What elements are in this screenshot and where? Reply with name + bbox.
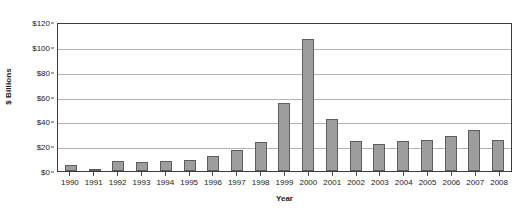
x-axis-tick-slot (392, 172, 416, 177)
bar-slot (225, 24, 249, 171)
y-axis-tick-mark (51, 172, 54, 173)
x-axis-tick-label: 1991 (82, 178, 106, 191)
x-axis-tick-mark (403, 172, 404, 176)
x-axis-tick-label: 1996 (201, 178, 225, 191)
bar[interactable] (136, 162, 148, 171)
x-axis-tick-label: 1997 (225, 178, 249, 191)
x-axis-tick-label: 2008 (487, 178, 511, 191)
bar-slot (296, 24, 320, 171)
plot-area (57, 23, 512, 172)
x-axis-tick-slot (463, 172, 487, 177)
bar-slot (415, 24, 439, 171)
x-axis-tick-slot (225, 172, 249, 177)
y-axis-tick-mark (51, 23, 54, 24)
y-axis-tick-label: $0 (41, 168, 50, 177)
x-axis-tick-label: 1998 (249, 178, 273, 191)
bar[interactable] (112, 161, 124, 171)
x-axis-tick-mark (93, 172, 94, 176)
bar[interactable] (207, 156, 219, 171)
x-axis-tick-slot (320, 172, 344, 177)
x-axis-tick-mark (260, 172, 261, 176)
x-axis-tick-label: 2005 (416, 178, 440, 191)
bar-slot (154, 24, 178, 171)
x-axis-tick-label: 1993 (130, 178, 154, 191)
x-axis-tick-label: 1999 (273, 178, 297, 191)
bar[interactable] (445, 136, 457, 171)
x-axis-tick-slot (153, 172, 177, 177)
x-axis-tick-mark (332, 172, 333, 176)
x-axis-tick-mark (451, 172, 452, 176)
x-axis-tick-mark (284, 172, 285, 176)
bar[interactable] (373, 144, 385, 171)
x-axis-tick-label: 1992 (106, 178, 130, 191)
x-axis-tick-slot (296, 172, 320, 177)
bar[interactable] (255, 142, 267, 171)
x-axis-tick-slot (177, 172, 201, 177)
x-axis-tick-slot (368, 172, 392, 177)
bar-slot (320, 24, 344, 171)
x-axis-tick-label: 2001 (320, 178, 344, 191)
y-axis-tick-label: $40 (37, 118, 50, 127)
x-axis-tick-slot (440, 172, 464, 177)
bar[interactable] (184, 160, 196, 171)
bar[interactable] (160, 161, 172, 171)
bar[interactable] (468, 130, 480, 171)
x-axis-tick-mark (69, 172, 70, 176)
x-axis-tick-slot (130, 172, 154, 177)
bar-slot (486, 24, 510, 171)
bar[interactable] (278, 103, 290, 171)
x-axis-tick-slot (273, 172, 297, 177)
x-axis-tick-slot (249, 172, 273, 177)
bar-chart-figure: $ Billions $0$20$40$60$80$100$120 199019… (0, 0, 524, 213)
y-axis-tick-label: $20 (37, 143, 50, 152)
x-axis-tick-slot (487, 172, 511, 177)
y-axis-tick-mark (51, 97, 54, 98)
bar[interactable] (421, 140, 433, 171)
bar[interactable] (492, 140, 504, 171)
bar[interactable] (350, 141, 362, 171)
x-axis-tick-label: 2004 (392, 178, 416, 191)
x-axis-tick-mark (308, 172, 309, 176)
x-axis-tick-mark (189, 172, 190, 176)
x-axis-tick-slot (344, 172, 368, 177)
x-axis-tick-mark (165, 172, 166, 176)
x-axis-tick-label: 2003 (368, 178, 392, 191)
bar[interactable] (326, 119, 338, 171)
x-axis-tick-mark (499, 172, 500, 176)
bar-slot (391, 24, 415, 171)
bar[interactable] (231, 150, 243, 171)
x-axis-tick-slot (58, 172, 82, 177)
bar[interactable] (65, 165, 77, 171)
y-axis-tick-mark (51, 72, 54, 73)
x-axis-tick-labels: 1990199119921993199419951996199719981999… (57, 178, 512, 191)
y-axis-tick-label: $120 (32, 19, 50, 28)
bar[interactable] (397, 141, 409, 171)
x-axis-tick-label: 2002 (344, 178, 368, 191)
x-axis-tick-label: 2007 (463, 178, 487, 191)
bar-slot (344, 24, 368, 171)
x-axis-tick-mark (212, 172, 213, 176)
x-axis-tick-slot (201, 172, 225, 177)
x-axis-tick-mark (236, 172, 237, 176)
x-axis-tick-mark (117, 172, 118, 176)
bar-slot (178, 24, 202, 171)
x-axis-tick-mark (427, 172, 428, 176)
bar-slot (106, 24, 130, 171)
x-axis-tick-label: 2006 (440, 178, 464, 191)
bar[interactable] (89, 169, 101, 171)
x-axis-tick-marks (57, 172, 512, 177)
bar-series (58, 24, 511, 171)
x-axis-tick-label: 1994 (153, 178, 177, 191)
bar-slot (83, 24, 107, 171)
x-axis-tick-label: 1990 (58, 178, 82, 191)
bar-slot (130, 24, 154, 171)
bar-slot (462, 24, 486, 171)
y-axis-title: $ Billions (0, 0, 16, 172)
x-axis-tick-mark (356, 172, 357, 176)
x-axis-tick-mark (379, 172, 380, 176)
bar-slot (273, 24, 297, 171)
x-axis-tick-label: 1995 (177, 178, 201, 191)
bar[interactable] (302, 39, 314, 171)
y-axis-tick-label: $60 (37, 93, 50, 102)
y-axis-tick-label: $100 (32, 43, 50, 52)
